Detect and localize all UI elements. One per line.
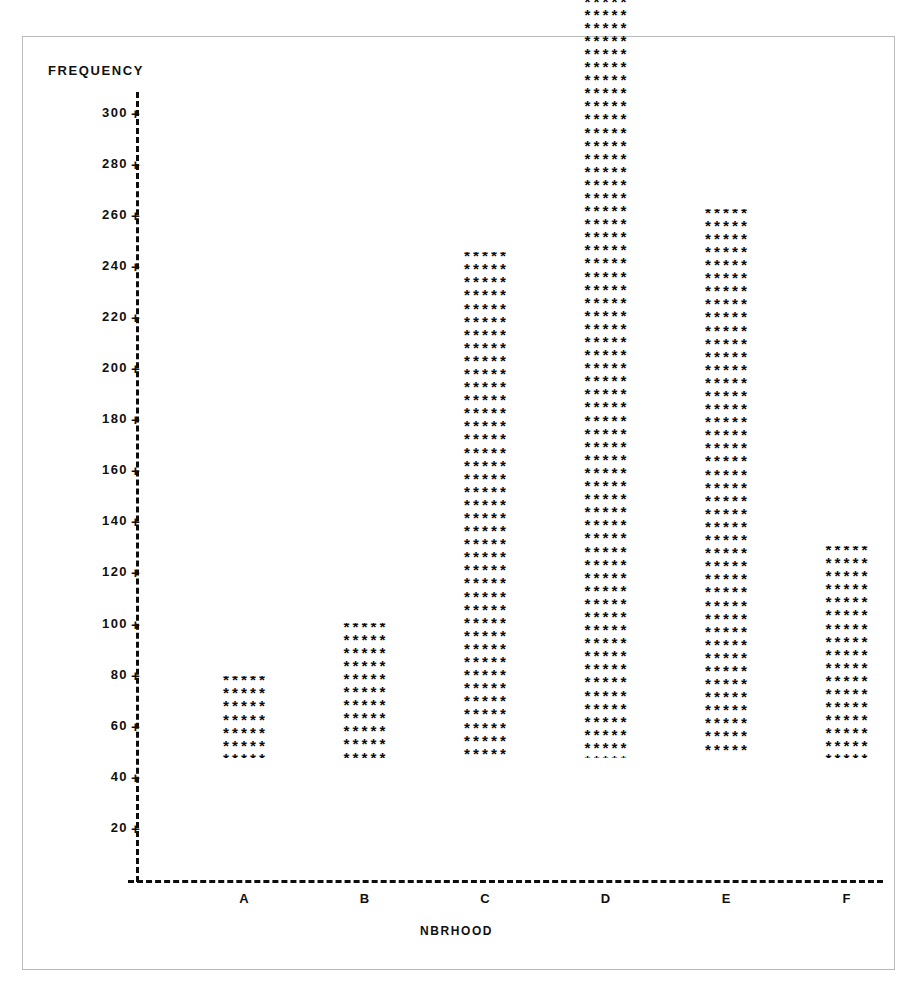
bar-fill-row: ***** bbox=[456, 750, 514, 758]
x-axis-tick-label-c: C bbox=[456, 891, 514, 906]
bar-d: ****************************************… bbox=[577, 0, 635, 758]
bar-f: ****************************************… bbox=[818, 546, 876, 758]
bar-fill-row: ***** bbox=[697, 746, 755, 758]
bars-layer: ****************************************… bbox=[0, 0, 913, 880]
bar-c: ****************************************… bbox=[456, 252, 514, 758]
bar-e: ****************************************… bbox=[697, 209, 755, 758]
bar-fill-row: ***** bbox=[336, 754, 394, 758]
bar-b: ****************************************… bbox=[336, 623, 394, 758]
x-axis-tick-label-d: D bbox=[577, 891, 635, 906]
bar-fill-row: ***** bbox=[577, 757, 635, 758]
chart-page: FREQUENCY 20+40+60+80+100+120+140+160+18… bbox=[0, 0, 913, 1002]
x-axis-baseline bbox=[128, 880, 883, 883]
bar-a: *********************************** bbox=[215, 676, 273, 758]
x-axis-tick-label-b: B bbox=[336, 891, 394, 906]
x-axis-tick-label-a: A bbox=[215, 891, 273, 906]
x-axis-title: NBRHOOD bbox=[0, 924, 913, 938]
x-axis-tick-label-f: F bbox=[818, 891, 876, 906]
bar-fill-row: ***** bbox=[215, 755, 273, 758]
bar-fill-row: ***** bbox=[818, 755, 876, 758]
plot-area: FREQUENCY 20+40+60+80+100+120+140+160+18… bbox=[0, 0, 913, 1002]
x-axis-tick-label-e: E bbox=[697, 891, 755, 906]
